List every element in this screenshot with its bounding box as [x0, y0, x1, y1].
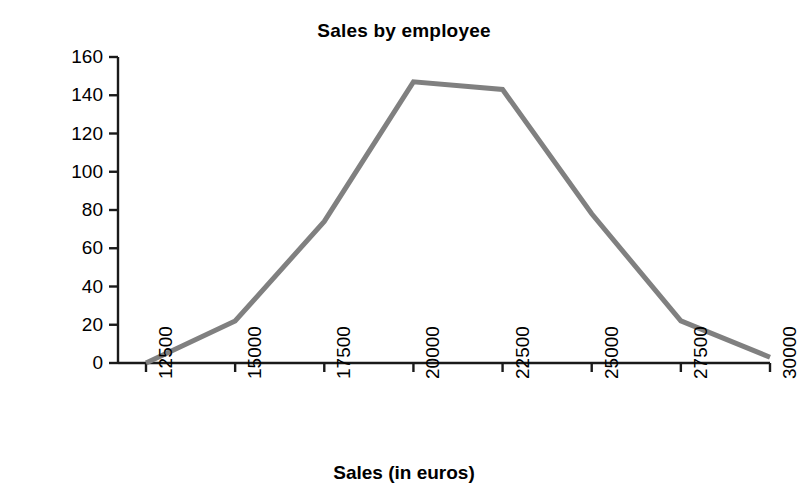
x-tick-label: 30000	[780, 326, 799, 379]
x-tick-label: 25000	[602, 326, 621, 379]
data-series-line	[146, 82, 770, 363]
x-tick-label: 12500	[156, 326, 175, 379]
chart-figure: Sales by employee Frequency Sales (in eu…	[0, 0, 808, 500]
y-tick-label: 40	[43, 277, 103, 296]
x-tick-label: 27500	[691, 326, 710, 379]
x-tick-label: 20000	[423, 326, 442, 379]
axes	[118, 57, 770, 363]
plot-area	[0, 0, 808, 500]
y-tick-label: 120	[43, 124, 103, 143]
x-tick-marks	[146, 363, 770, 372]
y-tick-marks	[109, 57, 118, 363]
x-tick-label: 15000	[245, 326, 264, 379]
y-tick-label: 0	[43, 353, 103, 372]
x-tick-label: 17500	[334, 326, 353, 379]
y-tick-label: 160	[43, 47, 103, 66]
y-tick-label: 140	[43, 85, 103, 104]
y-tick-label: 20	[43, 315, 103, 334]
y-tick-label: 100	[43, 162, 103, 181]
x-tick-label: 22500	[513, 326, 532, 379]
y-tick-label: 60	[43, 238, 103, 257]
y-tick-label: 80	[43, 200, 103, 219]
